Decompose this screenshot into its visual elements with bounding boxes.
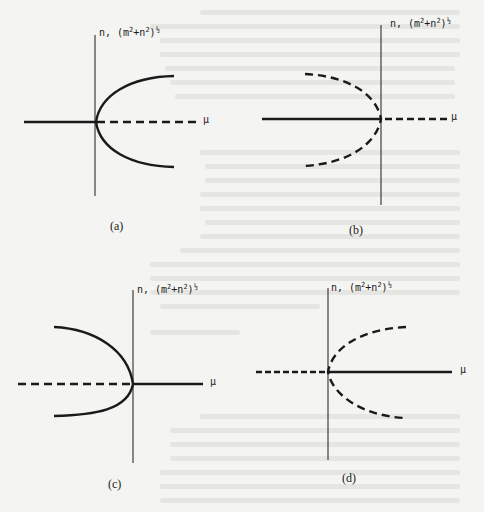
panel-b-x-axis-label: μ (451, 112, 457, 122)
panel-c-y-axis-label: n, (m2+n2)½ (137, 284, 198, 295)
panel-a-caption: (a) (110, 220, 123, 232)
panel-c (18, 290, 203, 463)
panel-c-caption: (c) (108, 478, 121, 490)
panel-d-caption: (d) (342, 472, 356, 484)
figure-page: n, (m2+n2)½ μ (a) n, (m2+n2)½ μ (b) n, (… (0, 0, 484, 512)
panel-d-x-axis-label: μ (460, 365, 466, 375)
panel-b (262, 25, 450, 205)
panel-a-y-axis-label: n, (m2+n2)½ (99, 27, 160, 38)
bifurcation-diagrams (0, 0, 484, 512)
panel-b-caption: (b) (349, 224, 363, 236)
panel-a (24, 35, 200, 196)
panel-c-parabola-solid (54, 327, 133, 416)
panel-c-x-axis-label: μ (210, 377, 216, 387)
panel-a-x-axis-label: μ (203, 115, 209, 125)
panel-d (256, 288, 452, 460)
panel-d-y-axis-label: n, (m2+n2)½ (331, 282, 392, 293)
panel-b-y-axis-label: n, (m2+n2)½ (390, 18, 451, 29)
